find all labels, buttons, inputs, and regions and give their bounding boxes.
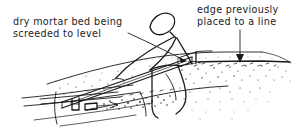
dry-mortar-bed-label-line2: screeded to level — [13, 28, 123, 40]
aggregate-flecks — [120, 63, 276, 97]
mortar-stipple-texture — [56, 57, 291, 122]
screeding-figure: dry mortar bed being screeded to level e… — [0, 0, 303, 140]
leader-arrow-to-edge — [236, 30, 244, 63]
edge-previously-placed-label: edge previously placed to a line — [197, 4, 279, 28]
edge-previously-placed-label-line2: placed to a line — [197, 16, 279, 28]
mortar-bed-outline — [47, 52, 291, 110]
dry-mortar-bed-label-line1: dry mortar bed being — [13, 16, 123, 28]
slab-substrate — [22, 85, 152, 126]
edge-previously-placed-label-line1: edge previously — [197, 4, 279, 16]
dry-mortar-bed-label: dry mortar bed being screeded to level — [13, 16, 123, 40]
